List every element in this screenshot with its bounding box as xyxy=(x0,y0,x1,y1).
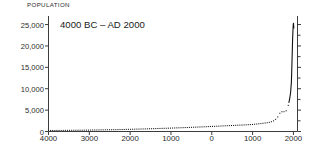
series-dot xyxy=(172,128,173,129)
series-dot xyxy=(117,129,118,130)
series-dot xyxy=(71,130,72,131)
series-dot xyxy=(275,119,276,120)
series-dot xyxy=(103,129,104,130)
x-tick-label: 0 xyxy=(210,134,214,143)
series-dot xyxy=(94,129,95,130)
series-dot xyxy=(128,129,129,130)
series-dot xyxy=(73,130,74,131)
series-dot xyxy=(105,129,106,130)
series-dot xyxy=(235,125,236,126)
series-dot xyxy=(145,128,146,129)
series-dot xyxy=(164,128,165,129)
series-dot xyxy=(284,111,285,112)
series-dot xyxy=(126,129,127,130)
y-axis-ticks-right xyxy=(298,25,302,132)
series-dot xyxy=(115,129,116,130)
series-dot xyxy=(96,129,97,130)
series-dot xyxy=(82,130,83,131)
series-dot xyxy=(220,125,221,126)
series-dot xyxy=(63,130,64,131)
series-dot xyxy=(149,128,150,129)
y-tick-label: 25,000 xyxy=(21,20,44,29)
series-dot xyxy=(52,130,53,131)
series-dot xyxy=(166,128,167,129)
series-dot xyxy=(69,130,70,131)
axes-group xyxy=(49,16,298,132)
series-dot xyxy=(241,124,242,125)
series-dot xyxy=(256,124,257,125)
y-tick-label: 10,000 xyxy=(21,84,44,93)
series-dot xyxy=(193,127,194,128)
y-tick-label: 5,000 xyxy=(25,106,44,115)
series-dot xyxy=(265,122,266,123)
series-dot xyxy=(248,124,249,125)
series-dot xyxy=(109,129,110,130)
series-dot xyxy=(218,126,219,127)
series-dot xyxy=(88,130,89,131)
series-dot xyxy=(98,129,99,130)
series-dot xyxy=(277,116,278,117)
x-tick-label: 1000 xyxy=(162,134,179,143)
series-dot xyxy=(258,123,259,124)
series-dot xyxy=(56,130,57,131)
x-tick-label: 2000 xyxy=(121,134,138,143)
plot-area xyxy=(0,0,313,155)
series-dot xyxy=(50,130,51,131)
series-dot xyxy=(130,129,131,130)
y-tick-label: 20,000 xyxy=(21,41,44,50)
series-dot xyxy=(86,130,87,131)
x-tick-label: 1000 xyxy=(244,134,261,143)
series-dot xyxy=(90,130,91,131)
data-series-group xyxy=(48,23,294,131)
x-tick-label: 4000 xyxy=(40,134,57,143)
series-dot xyxy=(229,125,230,126)
series-dot xyxy=(246,124,247,125)
series-dot xyxy=(77,130,78,131)
series-dot xyxy=(120,129,121,130)
y-axis-ticks-left xyxy=(45,25,49,132)
series-dot xyxy=(254,124,255,125)
series-dot xyxy=(138,129,139,130)
x-tick-label: 3000 xyxy=(81,134,98,143)
series-dot xyxy=(159,128,160,129)
series-dot xyxy=(84,130,85,131)
series-dot xyxy=(260,123,261,124)
series-dot xyxy=(168,128,169,129)
series-dot xyxy=(143,128,144,129)
series-dot xyxy=(252,124,253,125)
series-dot xyxy=(202,126,203,127)
series-dot xyxy=(262,123,263,124)
series-dot xyxy=(286,110,287,111)
series-dot xyxy=(191,127,192,128)
y-axis-tick-labels: 05,00010,00015,00020,00025,000 xyxy=(0,0,44,155)
series-dot xyxy=(67,130,68,131)
series-dot xyxy=(124,129,125,130)
population-chart-figure: POPULATION 4000 BC – AD 2000 05,00010,00… xyxy=(0,0,313,155)
series-dot xyxy=(155,128,156,129)
series-dot xyxy=(92,129,93,130)
series-dot xyxy=(113,129,114,130)
series-dot xyxy=(61,130,62,131)
series-dot xyxy=(195,127,196,128)
series-dot xyxy=(80,130,81,131)
series-dot xyxy=(244,124,245,125)
series-dot xyxy=(237,125,238,126)
series-dot xyxy=(174,127,175,128)
series-dot xyxy=(212,126,213,127)
series-dot xyxy=(197,127,198,128)
series-dot xyxy=(107,129,108,130)
series-dot xyxy=(187,127,188,128)
series-dot xyxy=(250,124,251,125)
series-dot xyxy=(111,129,112,130)
series-dot xyxy=(204,126,205,127)
series-dot xyxy=(59,130,60,131)
series-dot xyxy=(273,120,274,121)
series-dot xyxy=(279,113,280,114)
series-dot xyxy=(183,127,184,128)
series-dot xyxy=(48,130,49,131)
series-dot xyxy=(157,128,158,129)
series-dot xyxy=(288,105,289,106)
series-dot xyxy=(239,125,240,126)
series-dot xyxy=(227,125,228,126)
series-dot xyxy=(153,128,154,129)
